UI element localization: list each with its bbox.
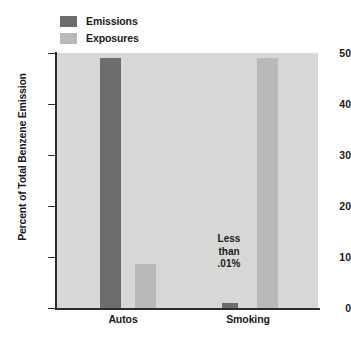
legend-item-exposures: Exposures <box>60 31 210 45</box>
annotation-line-3: .01% <box>208 258 250 271</box>
y-axis-line <box>55 52 57 309</box>
y-tick-mark-0 <box>48 308 55 309</box>
chart-legend: Emissions Exposures <box>60 14 210 48</box>
x-axis-line <box>55 308 320 310</box>
annotation-less-than-point-zero-one: Less than .01% <box>208 233 250 271</box>
bar-autos-exposures <box>135 264 156 308</box>
y-tick-mark-10 <box>48 257 55 258</box>
y-tick-mark-40 <box>48 104 55 105</box>
legend-item-emissions: Emissions <box>60 14 210 28</box>
y-axis-title: Percent of Total Benzene Emission <box>16 57 28 257</box>
legend-swatch-exposures <box>60 33 77 44</box>
legend-swatch-emissions <box>60 16 77 27</box>
legend-label-exposures: Exposures <box>86 33 139 44</box>
annotation-line-2: than <box>208 246 250 259</box>
x-tick-label-smoking: Smoking <box>203 313 293 325</box>
y-tick-mark-50 <box>48 53 55 54</box>
y-tick-mark-30 <box>48 155 55 156</box>
annotation-line-1: Less <box>208 233 250 246</box>
legend-label-emissions: Emissions <box>86 16 138 27</box>
benzene-emissions-bar-chart: Emissions Exposures 50 40 30 20 10 0 <box>0 0 351 340</box>
y-tick-mark-20 <box>48 206 55 207</box>
bar-smoking-exposures <box>257 58 278 308</box>
bar-autos-emissions <box>100 58 121 308</box>
x-tick-label-autos: Autos <box>78 313 168 325</box>
plot-area <box>57 53 318 308</box>
